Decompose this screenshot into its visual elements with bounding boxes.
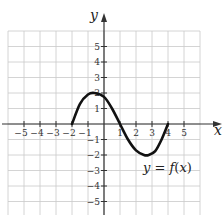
y-tick-label: −1 xyxy=(87,135,100,145)
y-tick-label: 4 xyxy=(94,57,100,67)
y-axis-label: y xyxy=(89,7,99,23)
x-tick-label: 2 xyxy=(133,128,139,138)
function-label: y = f(x) xyxy=(142,160,192,175)
y-tick-label: 3 xyxy=(94,73,100,83)
x-tick-label: 3 xyxy=(149,128,155,138)
x-tick-label: −2 xyxy=(62,128,75,138)
function-graph: −5−4−3−2−11234554321−1−2−3−4−5 x y y = f… xyxy=(0,0,224,215)
x-axis-label: x xyxy=(214,122,222,138)
y-tick-label: −2 xyxy=(87,150,100,160)
y-tick-label: 5 xyxy=(94,42,100,52)
x-tick-label: 5 xyxy=(181,128,187,138)
x-tick-label: −3 xyxy=(46,128,60,138)
x-tick-label: −4 xyxy=(30,128,44,138)
axes xyxy=(2,13,222,215)
y-tick-label: −4 xyxy=(87,181,101,191)
y-axis-arrow-icon xyxy=(101,13,107,22)
x-tick-label: −5 xyxy=(14,128,28,138)
y-tick-label: 1 xyxy=(94,104,100,114)
y-tick-label: −3 xyxy=(87,166,101,176)
y-tick-label: −5 xyxy=(87,197,101,207)
